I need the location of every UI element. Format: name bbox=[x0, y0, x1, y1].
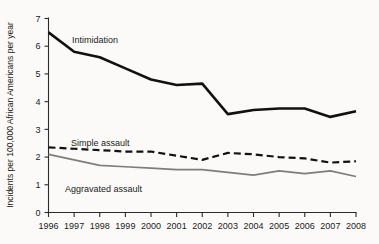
x-tick-label: 1997 bbox=[64, 221, 84, 231]
y-tick-label: 7 bbox=[35, 14, 40, 24]
y-tick-label: 1 bbox=[35, 180, 40, 190]
x-tick-label: 2008 bbox=[346, 221, 366, 231]
y-tick-label: 2 bbox=[35, 152, 40, 162]
x-axis: 1996199719981999200020012002200320042005… bbox=[38, 213, 366, 231]
x-tick-label: 2001 bbox=[167, 221, 187, 231]
y-axis-title: Incidents per 100,000 African Americans … bbox=[5, 22, 15, 208]
y-tick-label: 5 bbox=[35, 69, 40, 79]
series-label-intimidation: Intimidation bbox=[72, 35, 118, 45]
series-label-aggravated-assault: Aggravated assault bbox=[65, 184, 143, 194]
series-line-intimidation bbox=[49, 32, 357, 117]
x-tick-label: 2002 bbox=[192, 221, 212, 231]
chart-figure: 01234567 1996199719981999200020012002200… bbox=[0, 0, 379, 244]
y-tick-group: 01234567 bbox=[35, 14, 48, 218]
x-tick-label: 2000 bbox=[141, 221, 161, 231]
x-tick-group: 1996199719981999200020012002200320042005… bbox=[38, 213, 366, 231]
series-label-simple-assault: Simple assault bbox=[71, 138, 130, 148]
x-tick-label: 1999 bbox=[115, 221, 135, 231]
x-tick-label: 1998 bbox=[90, 221, 110, 231]
series-line-simple-assault bbox=[49, 147, 357, 162]
x-tick-label: 2003 bbox=[218, 221, 238, 231]
x-tick-label: 1996 bbox=[38, 221, 58, 231]
series-group bbox=[49, 32, 357, 176]
x-tick-label: 2005 bbox=[269, 221, 289, 231]
line-chart: 01234567 1996199719981999200020012002200… bbox=[0, 0, 379, 244]
x-tick-label: 2007 bbox=[320, 221, 340, 231]
y-axis: 01234567 bbox=[35, 14, 48, 218]
y-tick-label: 0 bbox=[35, 208, 40, 218]
y-tick-label: 4 bbox=[35, 97, 40, 107]
series-line-aggravated-assault bbox=[49, 154, 357, 176]
x-tick-label: 2006 bbox=[295, 221, 315, 231]
y-tick-label: 3 bbox=[35, 125, 40, 135]
y-tick-label: 6 bbox=[35, 41, 40, 51]
x-tick-label: 2004 bbox=[243, 221, 263, 231]
